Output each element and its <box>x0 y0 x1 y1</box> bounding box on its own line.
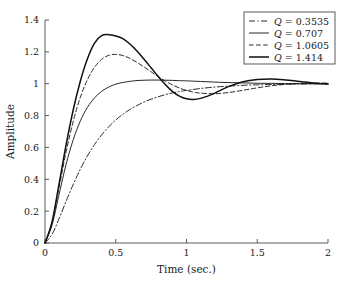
y-tick-label: 0.4 <box>24 174 39 185</box>
curve-series-1 <box>45 80 328 243</box>
x-axis-title: Time (sec.) <box>157 263 216 275</box>
step-response-plot: 00.20.40.60.811.21.4 00.511.52 Q = 0.353… <box>0 0 344 285</box>
y-tick-label: 0 <box>33 237 39 248</box>
y-tick-label: 0.6 <box>24 142 39 153</box>
legend-label-2: Q = 1.0605 <box>274 40 329 51</box>
y-tick-label: 0.8 <box>24 110 39 121</box>
y-axis-title: Amplitude <box>4 104 16 160</box>
y-tick-label: 1 <box>33 78 39 89</box>
curve-series-3 <box>45 35 328 243</box>
x-tick-label: 1 <box>183 247 189 258</box>
data-curves <box>45 35 328 243</box>
x-tick-label: 0.5 <box>108 247 123 258</box>
chart-legend: Q = 0.3535Q = 0.707Q = 1.0605Q = 1.414 <box>244 12 335 64</box>
legend-label-1: Q = 0.707 <box>274 28 323 39</box>
x-tick-label: 0 <box>42 247 48 258</box>
y-tick-label: 1.2 <box>24 46 39 57</box>
x-axis-ticks: 00.511.52 <box>42 239 331 258</box>
legend-label-3: Q = 1.414 <box>274 52 323 63</box>
y-tick-label: 1.4 <box>24 14 39 25</box>
x-tick-label: 1.5 <box>250 247 265 258</box>
x-tick-label: 2 <box>325 247 331 258</box>
curve-series-2 <box>45 54 328 243</box>
y-tick-label: 0.2 <box>24 206 39 217</box>
chart-figure: 00.20.40.60.811.21.4 00.511.52 Q = 0.353… <box>0 0 344 285</box>
legend-label-0: Q = 0.3535 <box>274 16 329 27</box>
